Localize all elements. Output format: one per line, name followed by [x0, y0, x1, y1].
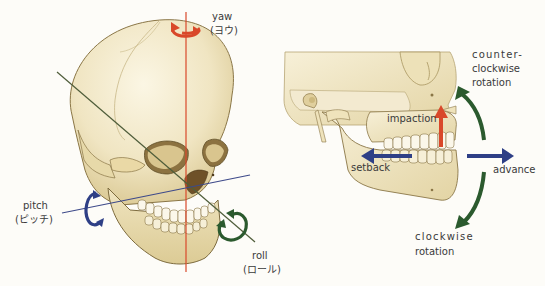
pitch-label-jp: (ピッチ) — [15, 213, 53, 226]
skull-illustration — [0, 0, 545, 286]
impaction-label: impaction — [387, 112, 437, 125]
cw-rotation-arrow-icon — [455, 172, 484, 229]
setback-label: setback — [351, 161, 390, 174]
roll-label: roll — [252, 249, 268, 262]
advance-label: advance — [493, 163, 536, 176]
pitch-label: pitch — [23, 199, 48, 212]
roll-label-jp: (ロール) — [243, 263, 281, 276]
diagram-stage: yaw (ヨウ) pitch (ピッチ) roll (ロール) impactio… — [0, 0, 545, 286]
ccw-rotation-arrow-icon — [455, 86, 484, 140]
ccw-rotation-label-line3: rotation — [472, 76, 511, 89]
lateral-skull — [284, 52, 458, 200]
yaw-label: yaw — [212, 10, 232, 23]
advance-arrow-icon — [467, 148, 514, 164]
skull-cranium — [70, 20, 233, 205]
cw-rotation-label-line2: rotation — [415, 245, 454, 258]
cw-rotation-label-line1: clockwise — [415, 230, 474, 243]
ccw-rotation-label-line2: clockwise — [472, 62, 520, 75]
roll-rotation-arrow-icon — [216, 209, 246, 240]
yaw-label-jp: (ヨウ) — [210, 24, 238, 37]
ccw-rotation-label-line1: counter- — [472, 48, 523, 61]
